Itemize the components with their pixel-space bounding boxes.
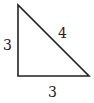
triangle-diagram: 3 4 3 (0, 0, 94, 103)
right-triangle-shape (18, 5, 89, 76)
bottom-side-label: 3 (48, 84, 57, 100)
left-side-label: 3 (3, 37, 12, 53)
hypotenuse-label: 4 (58, 25, 67, 41)
